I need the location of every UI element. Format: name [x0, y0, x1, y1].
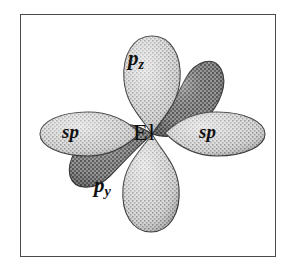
label-py-subscript: y	[105, 183, 111, 199]
label-py: py	[94, 175, 111, 198]
label-sp-left: sp	[62, 122, 79, 141]
label-sp-right: sp	[199, 122, 216, 141]
label-pz: pz	[128, 48, 144, 71]
label-pz-subscript: z	[139, 56, 144, 72]
label-py-base: p	[94, 173, 105, 197]
center-atom-label: El	[133, 119, 155, 146]
orbital-diagram-figure: pz py sp sp El	[0, 0, 292, 272]
label-pz-base: p	[128, 46, 139, 70]
